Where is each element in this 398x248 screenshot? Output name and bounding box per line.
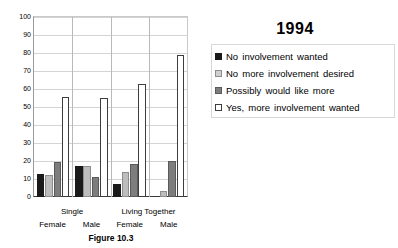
- bar: [113, 184, 121, 197]
- bar: [83, 166, 91, 197]
- bars-layer: [34, 17, 187, 197]
- legend-item[interactable]: No involvement wanted: [215, 48, 394, 65]
- bar-group: [72, 17, 110, 197]
- legend-panel: 1994 No involvement wantedNo more involv…: [205, 0, 398, 248]
- y-tick-label: 10: [3, 175, 31, 182]
- bar: [168, 161, 176, 197]
- x-axis-subgroup-row: FemaleMaleFemaleMale: [33, 219, 189, 231]
- bar: [37, 174, 45, 197]
- y-tick-label: 100: [3, 13, 31, 20]
- y-axis: 1009080706050403020100: [0, 0, 31, 198]
- legend-swatch-white-icon: [215, 104, 222, 111]
- bar: [45, 175, 53, 197]
- bar-group: [149, 17, 187, 197]
- y-tick-label: 40: [3, 121, 31, 128]
- y-tick-label: 60: [3, 85, 31, 92]
- y-tick-label: 70: [3, 67, 31, 74]
- legend-swatch-black-icon: [215, 53, 222, 60]
- legend-box: No involvement wantedNo more involvement…: [211, 44, 395, 118]
- x-axis-subgroup-label: Male: [160, 219, 177, 230]
- x-axis-group-label: Single: [61, 206, 83, 217]
- legend-item[interactable]: Possibly would like more: [215, 82, 394, 99]
- y-tick-label: 0: [3, 193, 31, 200]
- bar: [54, 162, 62, 197]
- bar: [62, 97, 70, 197]
- bar: [177, 55, 185, 197]
- legend-label: Yes, more involvement wanted: [226, 102, 360, 113]
- x-axis-subgroup-label: Female: [39, 219, 66, 230]
- x-axis-labels: SingleLiving Together FemaleMaleFemaleMa…: [33, 199, 189, 233]
- bar: [75, 166, 83, 197]
- bar-chart-panel: 1009080706050403020100 SingleLiving Toge…: [0, 0, 205, 248]
- y-tick-label: 90: [3, 31, 31, 38]
- legend-swatch-light-gray-icon: [215, 70, 222, 77]
- x-axis-subgroup-label: Female: [116, 219, 143, 230]
- x-axis-group-row: SingleLiving Together: [33, 206, 189, 218]
- legend-item[interactable]: Yes, more involvement wanted: [215, 99, 394, 116]
- y-tick-label: 50: [3, 103, 31, 110]
- x-axis-group-label: Living Together: [121, 206, 175, 217]
- y-tick-label: 30: [3, 139, 31, 146]
- bar-group: [34, 17, 72, 197]
- bar: [160, 191, 168, 197]
- bar: [92, 177, 100, 197]
- bar: [100, 98, 108, 197]
- bar: [138, 84, 146, 197]
- figure-caption: Figure 10.3: [33, 233, 189, 243]
- legend-label: Possibly would like more: [226, 85, 335, 96]
- legend-item[interactable]: No more involvement desired: [215, 65, 394, 82]
- bar-group: [111, 17, 149, 197]
- chart-title: 1994: [205, 20, 385, 38]
- y-tick-label: 80: [3, 49, 31, 56]
- legend-swatch-medium-gray-icon: [215, 87, 222, 94]
- x-axis-subgroup-label: Male: [83, 219, 100, 230]
- legend-label: No more involvement desired: [226, 68, 354, 79]
- legend-label: No involvement wanted: [226, 51, 328, 62]
- y-tick-label: 20: [3, 157, 31, 164]
- bar: [122, 172, 130, 197]
- bar: [130, 164, 138, 197]
